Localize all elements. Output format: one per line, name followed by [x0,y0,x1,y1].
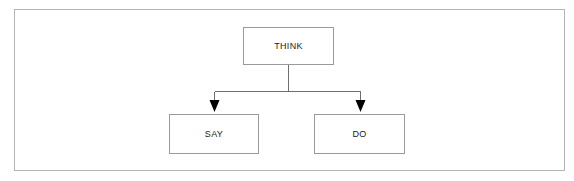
node-do-label: DO [352,130,366,139]
node-think-label: THINK [274,42,303,51]
node-do[interactable]: DO [314,114,405,154]
node-say[interactable]: SAY [169,114,259,154]
diagram-canvas: THINK SAY DO [0,0,574,181]
node-think[interactable]: THINK [243,27,334,65]
node-say-label: SAY [205,130,223,139]
